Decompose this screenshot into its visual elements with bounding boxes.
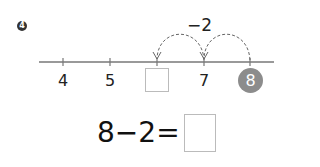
jump-label: −2: [187, 15, 212, 35]
jump-arc-2: [157, 34, 204, 60]
equation-equals: =: [156, 117, 179, 149]
equation-right: 2: [138, 117, 156, 149]
equation-operator: −: [115, 117, 138, 149]
equation: 8 − 2 =: [97, 114, 216, 152]
equation-answer-box[interactable]: [184, 114, 216, 152]
highlighted-start-number: 8: [238, 68, 263, 93]
number-line-answer-box[interactable]: [145, 68, 169, 92]
tick-label-4: 4: [58, 72, 68, 90]
equation-left: 8: [97, 117, 115, 149]
tick-label-5: 5: [105, 72, 115, 90]
jump-arc-1: [204, 34, 250, 60]
tick-label-7: 7: [199, 72, 209, 90]
